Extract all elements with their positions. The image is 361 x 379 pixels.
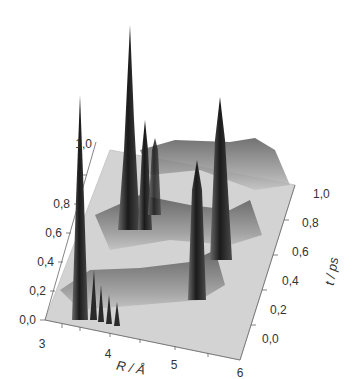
svg-text:3: 3	[39, 337, 46, 351]
svg-text:0,2: 0,2	[270, 303, 287, 317]
svg-text:4: 4	[105, 347, 112, 361]
svg-text:0,6: 0,6	[292, 245, 309, 259]
svg-text:0,4: 0,4	[282, 274, 299, 288]
x-axis-title: R / Å	[115, 358, 146, 378]
surface-plot: 0,0 0,2 0,4 0,6 0,8 1,0 3 4 5 6 R / Å 0,…	[0, 0, 361, 379]
peak-main	[118, 25, 140, 230]
svg-text:6: 6	[237, 366, 244, 379]
y-axis-title: t / ps	[322, 256, 342, 287]
svg-text:0,2: 0,2	[29, 284, 46, 298]
svg-text:0,8: 0,8	[53, 197, 70, 211]
svg-text:0,8: 0,8	[302, 216, 319, 230]
svg-text:5: 5	[171, 358, 178, 372]
svg-text:0,6: 0,6	[45, 226, 62, 240]
svg-text:0,0: 0,0	[262, 332, 279, 346]
peak-left	[72, 95, 88, 320]
svg-text:0,4: 0,4	[37, 255, 54, 269]
svg-text:1,0: 1,0	[75, 137, 92, 151]
svg-text:1,0: 1,0	[313, 187, 330, 201]
svg-text:0,0: 0,0	[19, 313, 36, 327]
